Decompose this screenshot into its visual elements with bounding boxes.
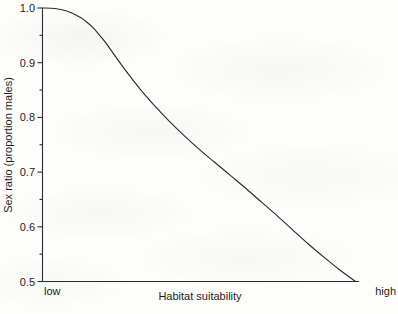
y-tick-label: 0.9 — [20, 57, 35, 69]
chart-figure: 1.0 0.9 0.8 0.7 0.6 0.5 Sex ratio (propo… — [0, 0, 398, 314]
y-tick-labels: 1.0 0.9 0.8 0.7 0.6 0.5 — [20, 2, 35, 288]
y-tick-label: 0.6 — [20, 221, 35, 233]
x-tick-label-high: high — [375, 285, 396, 297]
x-tick-label-low: low — [44, 285, 61, 297]
plot-area: 1.0 0.9 0.8 0.7 0.6 0.5 Sex ratio (propo… — [0, 0, 398, 314]
data-series-line — [43, 8, 356, 282]
y-tick-label: 1.0 — [20, 2, 35, 14]
y-tick-label: 0.7 — [20, 166, 35, 178]
y-tick-label: 0.5 — [20, 276, 35, 288]
y-tick-label: 0.8 — [20, 111, 35, 123]
y-axis-title: Sex ratio (proportion males) — [2, 77, 14, 213]
x-axis-title: Habitat suitability — [158, 290, 242, 302]
